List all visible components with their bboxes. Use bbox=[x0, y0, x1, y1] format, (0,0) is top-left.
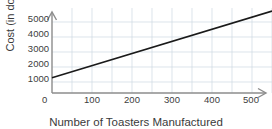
y-tick-4000: 4000 bbox=[28, 29, 49, 39]
series-line-cost bbox=[52, 11, 272, 78]
y-tick-5000: 5000 bbox=[28, 14, 49, 24]
x-axis-title: Number of Toasters Manufactured bbox=[0, 116, 272, 128]
y-tick-3000: 3000 bbox=[28, 44, 49, 54]
y-tick-2000: 2000 bbox=[28, 59, 49, 69]
x-tick-500: 500 bbox=[236, 95, 266, 105]
y-axis-title: Cost (in dollars) bbox=[4, 0, 16, 61]
y-tick-1000: 1000 bbox=[28, 74, 49, 84]
x-tick-200: 200 bbox=[117, 95, 147, 105]
x-tick-labels: 100 200 300 400 500 bbox=[0, 95, 272, 109]
x-tick-300: 300 bbox=[157, 95, 187, 105]
x-tick-400: 400 bbox=[197, 95, 227, 105]
x-tick-100: 100 bbox=[77, 95, 107, 105]
y-tick-labels: 5000 4000 3000 2000 1000 bbox=[16, 0, 49, 100]
grid-horizontal bbox=[52, 22, 272, 82]
line-chart: Cost (in dollars) 5000 4000 3000 2000 10… bbox=[0, 0, 272, 129]
